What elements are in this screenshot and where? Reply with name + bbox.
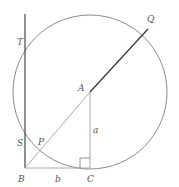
label-P: P [37,137,45,147]
segment-AQ [90,29,148,92]
label-S: S [17,138,23,148]
segment-BA [25,92,90,168]
label-B: B [17,174,25,184]
label-b: b [55,174,61,184]
label-Q: Q [147,14,155,24]
label-C: C [87,174,94,184]
label-T: T [17,37,24,47]
geometry-diagram: T Q A a S P B b C [0,0,179,187]
label-A: A [77,83,85,93]
label-a: a [93,125,98,135]
right-angle-marker [80,158,90,168]
